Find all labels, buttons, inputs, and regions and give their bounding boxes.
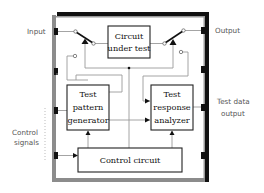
pin-right-2	[201, 66, 205, 73]
junction-dot	[128, 67, 131, 70]
block-control-circuit: Control circuit	[78, 148, 182, 172]
block-test-response-analyzer: Test response analyzer	[151, 85, 193, 130]
pin-input	[54, 28, 58, 35]
tra-label-line-3: analyzer	[154, 115, 189, 125]
test-data-output-label-line-2: output	[221, 109, 245, 118]
tra-label-line-2: response	[153, 102, 191, 112]
control-signals-label-line-1: Control	[12, 128, 38, 137]
pin-test-data-output	[201, 104, 205, 111]
control-signals-label-line-2: signals	[14, 138, 39, 147]
output-label: Output	[215, 26, 240, 35]
tpg-label-line-2: pattern	[73, 102, 104, 112]
tpg-label-line-3: generator	[67, 115, 108, 125]
tra-label-line-1: Test	[163, 89, 181, 99]
pin-right-4	[201, 152, 205, 159]
pin-control-2	[54, 152, 58, 159]
cut-label-line-1: Circuit	[115, 31, 144, 41]
control-circuit-label: Control circuit	[100, 155, 161, 165]
block-circuit-under-test: Circuit under test	[108, 26, 151, 58]
tpg-label-line-1: Test	[79, 89, 97, 99]
bist-diagram: Circuit under test Test pattern generato…	[0, 0, 264, 193]
cut-label-line-2: under test	[108, 43, 151, 53]
block-test-pattern-generator: Test pattern generator	[67, 85, 109, 130]
pin-control-1	[54, 107, 58, 114]
input-label: Input	[27, 27, 46, 36]
pin-output	[201, 27, 205, 34]
test-data-output-label-line-1: Test data	[216, 97, 250, 106]
